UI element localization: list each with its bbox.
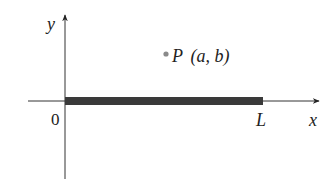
point-coords: (a, b) <box>191 46 230 67</box>
point-name: P <box>171 46 183 66</box>
point-p-label: P (a, b) <box>171 46 230 67</box>
rod <box>65 97 263 105</box>
rod-end-label: L <box>255 110 266 130</box>
diagram-canvas: y x 0 L P (a, b) <box>0 0 335 179</box>
y-axis-label: y <box>45 14 55 34</box>
origin-label: 0 <box>51 110 60 129</box>
x-axis-label: x <box>308 110 317 130</box>
point-p-dot <box>163 51 168 56</box>
